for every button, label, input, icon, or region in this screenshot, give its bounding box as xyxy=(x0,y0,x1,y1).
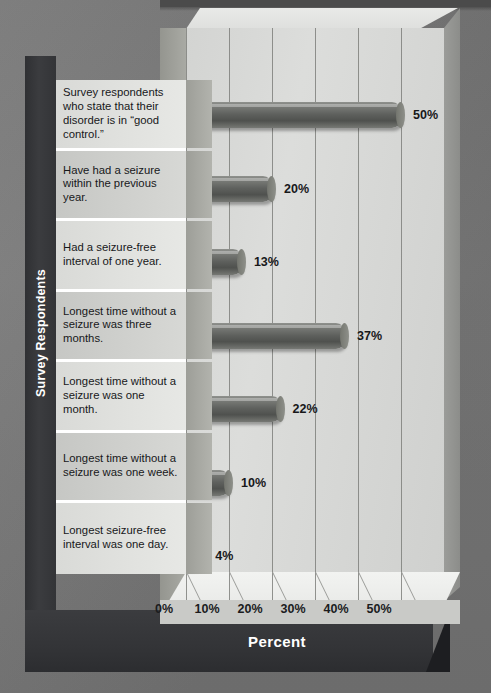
y-axis-title-text: Survey Respondents xyxy=(34,269,48,397)
category-label-text: Longest seizure-free interval was one da… xyxy=(63,524,181,552)
bar-body xyxy=(186,102,401,128)
category-label-6: Longest time without a seizure was one w… xyxy=(56,433,186,504)
bar-1: 50% xyxy=(186,102,401,128)
category-row-side-face xyxy=(186,292,212,360)
x-tick-20: 20% xyxy=(237,602,262,616)
bar-value-label-5: 22% xyxy=(293,402,318,416)
category-row-side-face xyxy=(186,80,212,148)
category-label-1: Survey respondents who state that their … xyxy=(56,80,186,151)
plot-right-side-face xyxy=(444,8,460,601)
page-top-edge xyxy=(160,0,491,7)
category-label-5: Longest time without a seizure was one m… xyxy=(56,362,186,433)
category-label-text: Longest time without a seizure was one w… xyxy=(63,452,181,480)
category-label-7: Longest seizure-free interval was one da… xyxy=(56,503,186,574)
x-tick-50: 50% xyxy=(366,602,391,616)
bar-value-label-4: 37% xyxy=(357,329,382,343)
x-tick-0: 0% xyxy=(155,602,173,616)
bar-highlight xyxy=(188,104,399,107)
x-tick-40: 40% xyxy=(323,602,348,616)
category-label-text: Had a seizure-free interval of one year. xyxy=(63,241,181,269)
plot-wall-top-face xyxy=(172,8,458,29)
category-row-side-face xyxy=(186,221,212,289)
category-row-side-face xyxy=(186,362,212,430)
category-label-text: Longest time without a seizure was three… xyxy=(63,305,181,346)
category-row-side-face xyxy=(186,151,212,219)
category-label-text: Survey respondents who state that their … xyxy=(63,86,181,141)
y-axis-title: Survey Respondents xyxy=(25,56,56,610)
category-label-text: Longest time without a seizure was one m… xyxy=(63,375,181,416)
bar-value-label-7: 4% xyxy=(215,549,233,563)
category-row-side-face xyxy=(186,503,212,574)
bar-value-label-2: 20% xyxy=(284,182,309,196)
bar-value-label-1: 50% xyxy=(413,108,438,122)
bar-value-label-6: 10% xyxy=(241,476,266,490)
category-label-3: Had a seizure-free interval of one year. xyxy=(56,221,186,292)
category-label-text: Have had a seizure within the previous y… xyxy=(63,164,181,205)
category-label-4: Longest time without a seizure was three… xyxy=(56,292,186,363)
category-label-2: Have had a seizure within the previous y… xyxy=(56,151,186,222)
x-tick-30: 30% xyxy=(280,602,305,616)
bar-value-label-3: 13% xyxy=(254,255,279,269)
x-axis-tick-labels: 0%10%20%30%40%50% xyxy=(160,600,460,624)
x-tick-10: 10% xyxy=(194,602,219,616)
category-row-side-face xyxy=(186,433,212,501)
category-label-column: Survey respondents who state that their … xyxy=(56,80,186,574)
